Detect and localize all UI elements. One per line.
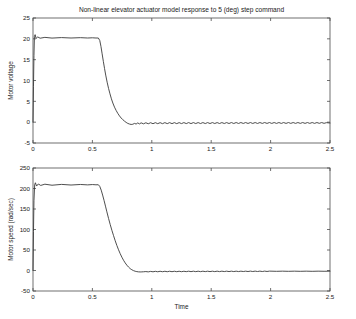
y-tick-label: 10 [23, 77, 30, 84]
chart-motor-speed: 00.511.522.5-50050100150200250Motor spee… [0, 160, 356, 319]
y-tick-label: 0 [27, 267, 31, 274]
x-tick-label: 1.5 [207, 293, 216, 300]
x-tick-label: 2.5 [326, 145, 335, 152]
y-tick-label: 0 [27, 118, 31, 125]
x-tick-label: 2 [269, 145, 273, 152]
y-tick-label: -50 [21, 287, 31, 294]
y-tick-label: 150 [20, 205, 31, 212]
x-tick-label: 0 [31, 293, 35, 300]
y-tick-label: -5 [24, 139, 30, 146]
y-tick-label: 100 [20, 226, 31, 233]
x-tick-label: 1 [150, 293, 154, 300]
x-tick-label: 1.5 [207, 145, 216, 152]
y-tick-label: 200 [20, 185, 31, 192]
x-tick-label: 0.5 [88, 145, 97, 152]
chart-motor-voltage: Non-linear elevator actuator model respo… [0, 0, 356, 160]
y-tick-label: 5 [27, 98, 31, 105]
figure-canvas: Non-linear elevator actuator model respo… [0, 0, 356, 319]
motor-speed-plot: 00.511.522.5-50050100150200250Motor spee… [0, 160, 356, 319]
x-tick-label: 2 [269, 293, 273, 300]
x-tick-label: 2.5 [326, 293, 335, 300]
motor-voltage-plot: Non-linear elevator actuator model respo… [0, 0, 356, 160]
x-axis-label: Time [175, 303, 189, 310]
x-tick-label: 1 [150, 145, 154, 152]
y-tick-label: 15 [23, 56, 30, 63]
plot-frame [33, 18, 330, 143]
y-tick-label: 50 [23, 246, 30, 253]
chart-title: Non-linear elevator actuator model respo… [79, 6, 285, 14]
plot-frame [33, 168, 330, 291]
x-tick-label: 0 [31, 145, 35, 152]
y-tick-label: 20 [23, 35, 30, 42]
y-axis-label: Motor voltage [7, 61, 15, 100]
y-axis-label: Motor speed (rad/sec) [7, 198, 15, 261]
y-tick-label: 250 [20, 164, 31, 171]
x-tick-label: 0.5 [88, 293, 97, 300]
y-tick-label: 25 [23, 14, 30, 21]
